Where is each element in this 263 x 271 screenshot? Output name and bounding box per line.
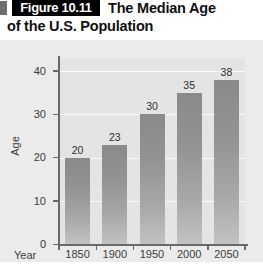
- bar: [140, 114, 165, 244]
- page-title-line-1: The Median Age: [108, 0, 216, 17]
- x-axis-tick-mark: [58, 245, 60, 250]
- y-axis-tick-label: 40: [0, 66, 54, 76]
- x-axis-line: [58, 244, 248, 246]
- bar: [214, 80, 239, 244]
- figure-page: Figure 10.11 The Median Age of the U.S. …: [0, 0, 263, 271]
- bar-value-label: 38: [206, 67, 246, 77]
- bar: [102, 145, 127, 245]
- x-axis-tick-mark: [170, 245, 172, 250]
- y-axis-tick-mark: [53, 157, 58, 159]
- bar-value-label: 23: [95, 132, 135, 142]
- bar: [65, 158, 90, 245]
- y-axis-label: Age: [9, 124, 21, 168]
- y-axis-tick-label: 10: [0, 196, 54, 206]
- page-title-line-2: of the U.S. Population: [7, 17, 153, 35]
- figure-number-badge: Figure 10.11: [12, 0, 100, 16]
- x-axis-tick-mark: [207, 245, 209, 250]
- x-axis-tick-label: 2050: [203, 249, 249, 260]
- y-axis-tick-mark: [53, 200, 58, 202]
- x-axis-tick-mark: [244, 245, 246, 250]
- x-axis-tick-mark: [133, 245, 135, 250]
- x-axis-label: Year: [14, 249, 36, 261]
- y-axis-tick-mark: [53, 70, 58, 72]
- bar-value-label: 35: [169, 80, 209, 90]
- corner-decoration-icon: [0, 1, 7, 15]
- y-axis-tick-mark: [53, 114, 58, 116]
- bar: [177, 93, 202, 244]
- figure-header: Figure 10.11 The Median Age of the U.S. …: [0, 0, 263, 40]
- y-axis-tick-mark: [53, 244, 58, 246]
- y-axis-tick-label: 0: [0, 239, 54, 249]
- bar-value-label: 20: [58, 145, 98, 155]
- bar-chart: 010203040 Age Year 18501900195020002050 …: [0, 40, 263, 262]
- y-axis-tick-label: 30: [0, 109, 54, 119]
- x-axis-tick-mark: [96, 245, 98, 250]
- bar-value-label: 30: [132, 101, 172, 111]
